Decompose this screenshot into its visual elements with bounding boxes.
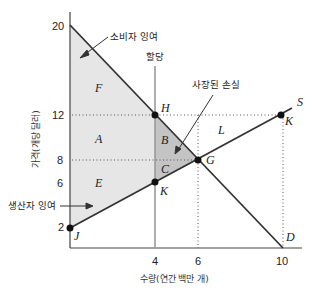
x-axis-label: 수량(연간 백만 개) (140, 273, 209, 284)
consumer-surplus-label: 소비자 잉여 (110, 31, 158, 42)
rationing-label: 할당 (146, 51, 164, 62)
producer-surplus-label: 생산자 잉여 (8, 200, 56, 211)
point-j (67, 225, 74, 232)
x-tick-10: 10 (276, 255, 288, 267)
label-s: S (297, 95, 303, 109)
y-tick-6: 6 (57, 177, 63, 189)
region-f: F (94, 81, 103, 95)
region-l: L (217, 123, 225, 137)
label-g: G (206, 153, 215, 167)
y-tick-12: 12 (52, 109, 64, 121)
x-tick-4: 4 (152, 255, 158, 267)
region-e: E (94, 176, 103, 190)
point-k-lower (152, 179, 159, 186)
y-axis-label: 가격(개당 달러) (30, 110, 41, 168)
label-h: H (160, 101, 171, 115)
rationing-diagram: 20 12 8 6 2 4 6 10 수량(연간 백만 개) 가격(개당 달러)… (0, 0, 312, 294)
region-a: A (94, 132, 103, 146)
region-b: B (161, 133, 169, 147)
x-tick-6: 6 (195, 255, 201, 267)
deadweight-loss-label: 사장된 손실 (192, 79, 240, 90)
point-h (152, 112, 159, 119)
label-d: D (285, 230, 295, 244)
region-c: C (161, 162, 170, 176)
point-g (195, 157, 202, 164)
y-tick-2: 2 (58, 221, 64, 233)
label-k-lower: K (159, 184, 169, 198)
y-tick-8: 8 (57, 154, 63, 166)
label-j: J (74, 229, 80, 243)
label-k-upper: K (284, 114, 294, 128)
point-k-upper (278, 112, 285, 119)
y-tick-20: 20 (52, 20, 64, 32)
